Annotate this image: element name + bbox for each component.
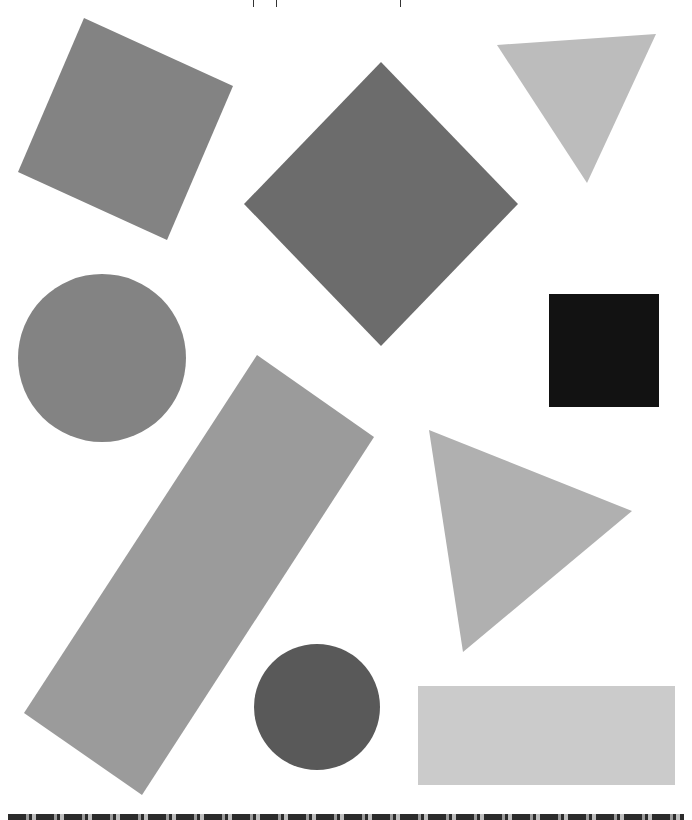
- circle-large-shape: [18, 274, 186, 442]
- square-tilted-shape: [18, 18, 233, 240]
- black-square-shape: [549, 294, 659, 407]
- diamond-shape: [244, 62, 518, 346]
- circle-dark-shape: [254, 644, 380, 770]
- flat-rectangle-shape: [418, 686, 675, 785]
- triangle-right-shape: [429, 430, 632, 652]
- bottom-strip: [8, 814, 684, 820]
- shapes-canvas: [0, 0, 692, 820]
- triangle-down-shape: [497, 34, 656, 183]
